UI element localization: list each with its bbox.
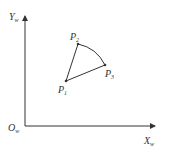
point-p1: [65, 80, 68, 83]
diagram-canvas: Yw Ow Xw P2 P3 P1: [0, 0, 170, 154]
edge-p1-p3: [66, 65, 105, 81]
point-label-p2: P2: [69, 31, 79, 43]
y-axis-label: Yw: [9, 11, 19, 23]
point-p2: [77, 43, 80, 46]
origin-label: Ow: [8, 122, 19, 134]
point-label-p1: P1: [57, 84, 67, 96]
arc-p2-p3: [78, 44, 105, 65]
point-label-p3: P3: [104, 68, 114, 80]
x-axis-label: Xw: [143, 135, 154, 147]
point-p3: [104, 64, 107, 67]
edge-p1-p2: [66, 44, 78, 81]
